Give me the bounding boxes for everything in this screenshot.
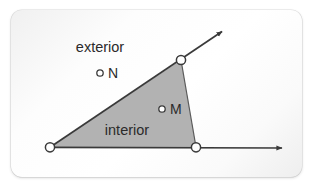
point-n-marker[interactable] xyxy=(97,70,103,76)
point-on-diagonal-ray[interactable] xyxy=(176,55,185,64)
interior-label: interior xyxy=(105,122,149,138)
exterior-label: exterior xyxy=(76,39,125,55)
geometry-diagram-svg: exterior interior N M xyxy=(11,10,302,177)
point-n-label: N xyxy=(108,65,118,81)
point-on-horizontal-ray[interactable] xyxy=(191,143,200,152)
diagram-card: exterior interior N M xyxy=(11,10,302,177)
ray-horizontal xyxy=(50,147,282,148)
figure-root: exterior interior N M xyxy=(0,0,315,188)
point-m-marker[interactable] xyxy=(159,106,165,112)
point-m-label: M xyxy=(170,101,182,117)
angle-vertex-point[interactable] xyxy=(45,143,54,152)
